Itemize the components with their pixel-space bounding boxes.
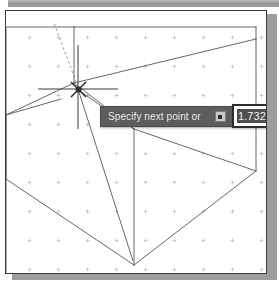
drawing-vector-layer: [6, 11, 266, 273]
drawing-canvas[interactable]: [6, 11, 266, 273]
cad-screenshot: Specify next point or 1.7321: [0, 0, 279, 282]
dynamic-input-value-field[interactable]: 1.7321: [232, 104, 267, 128]
grid-pattern: [6, 11, 266, 273]
dynamic-input-prompt-label: Specify next point or: [108, 111, 201, 122]
options-square-glyph: [218, 115, 222, 119]
osnap-center-dot: [76, 87, 82, 93]
drawing-window-frame: Specify next point or 1.7321: [5, 10, 267, 274]
dynamic-input-value-text: 1.7321: [237, 109, 267, 123]
window-top-strip-highlight: [8, 0, 279, 2]
options-square-icon[interactable]: [215, 111, 226, 122]
window-drop-shadow-right: [266, 14, 277, 280]
dynamic-input-tooltip: Specify next point or: [100, 106, 233, 127]
